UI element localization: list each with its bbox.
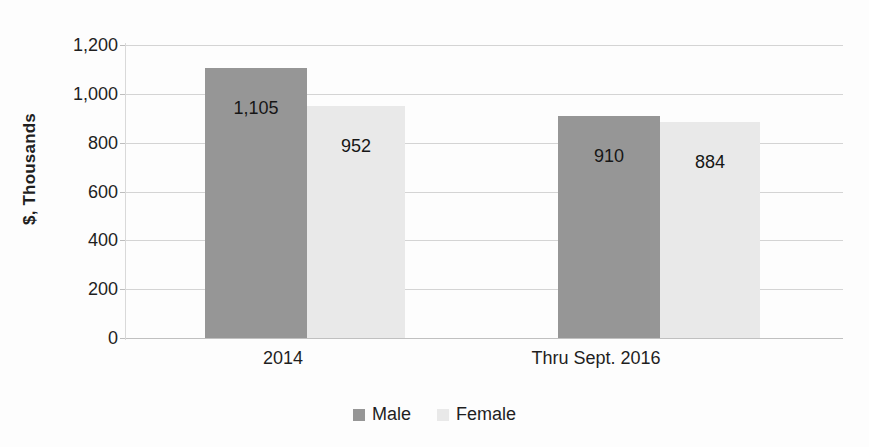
bar-value-label: 910: [594, 146, 624, 167]
y-axis-tick-label: 0: [34, 328, 118, 349]
bar-value-label: 884: [695, 152, 725, 173]
x-axis-label-0: 2014: [263, 348, 303, 369]
bar-male-1[interactable]: 910: [558, 116, 660, 338]
y-axis-tick-label: 800: [34, 132, 118, 153]
legend-label: Female: [456, 404, 516, 425]
plot-area: 1,105952910884: [126, 45, 843, 338]
legend-label: Male: [372, 404, 411, 425]
legend-swatch-icon: [437, 409, 449, 421]
y-axis-tick-label: 400: [34, 230, 118, 251]
axis-baseline: [126, 338, 843, 339]
legend-item-male[interactable]: Male: [353, 404, 411, 425]
y-axis-tick-labels: 1,2001,0008006004002000: [28, 45, 118, 338]
bar-value-label: 1,105: [233, 98, 278, 119]
bar-male-0[interactable]: 1,105: [205, 68, 307, 338]
x-axis-label-1: Thru Sept. 2016: [531, 348, 660, 369]
bar-female-0[interactable]: 952: [307, 106, 405, 338]
legend-item-female[interactable]: Female: [437, 404, 516, 425]
y-axis-tick-label: 1,000: [34, 83, 118, 104]
y-axis-tick-label: 200: [34, 279, 118, 300]
x-axis-category-labels: 2014Thru Sept. 2016: [126, 348, 843, 378]
y-axis-tick-label: 1,200: [34, 35, 118, 56]
chart-legend: MaleFemale: [0, 404, 869, 425]
bar-value-label: 952: [341, 136, 371, 157]
legend-swatch-icon: [353, 409, 365, 421]
bar-female-1[interactable]: 884: [660, 122, 760, 338]
bar-chart: $, Thousands 1,2001,0008006004002000 1,1…: [0, 0, 869, 447]
gridline: [126, 45, 843, 46]
y-axis-tick-label: 600: [34, 181, 118, 202]
